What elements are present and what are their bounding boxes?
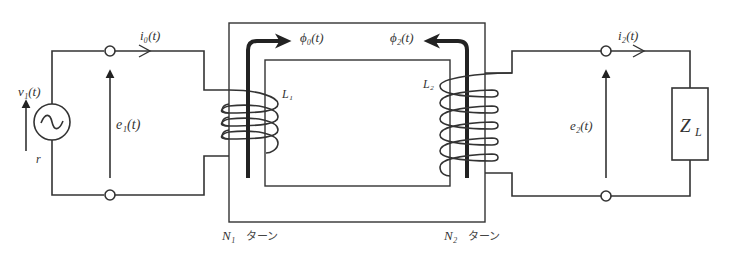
secondary-current-label: i₂(t): [618, 28, 638, 43]
secondary-turns-label: N₂ ターン: [443, 228, 500, 243]
svg-text:ターン: ターン: [468, 230, 500, 243]
secondary-circuit: L₂ i₂(t) e₂(t) Z L N₂ ターン: [422, 28, 708, 243]
primary-bottom-rail: [114, 156, 229, 195]
load-impedance: Z L: [672, 88, 708, 160]
primary-flux-label: ϕ₀(t): [300, 30, 324, 45]
ac-source-icon: [34, 104, 70, 140]
primary-voltage-label: e₁(t): [116, 117, 141, 133]
secondary-coil-icon: [440, 73, 512, 176]
secondary-load-bottom-wire: [611, 160, 690, 196]
primary-terminal-bottom: [105, 190, 115, 200]
primary-circuit: v₁(t) r i₀(t) e₁(t) L₁ N₁ ターン: [18, 28, 293, 243]
load-impedance-label: Z: [680, 115, 691, 136]
transformer-core: [229, 23, 485, 222]
svg-text:ターン: ターン: [246, 230, 278, 243]
secondary-voltage-label: e₂(t): [570, 118, 593, 133]
primary-flux-arrow-icon: [248, 41, 284, 178]
secondary-flux-label: ϕ₂(t): [390, 30, 414, 45]
primary-top-rail: [114, 51, 229, 90]
core-outer-edge: [229, 23, 485, 222]
svg-text:N₁: N₁: [221, 228, 235, 243]
source-resistance-label: r: [36, 152, 41, 166]
transformer-diagram: v₁(t) r i₀(t) e₁(t) L₁ N₁ ターン ϕ₀(t) ϕ₂(t…: [0, 0, 729, 257]
secondary-inductor-label: L₂: [422, 77, 434, 91]
secondary-terminal-top: [601, 46, 611, 56]
load-impedance-subscript: L: [694, 125, 702, 139]
secondary-load-top-wire: [611, 51, 690, 88]
primary-terminal-top: [105, 46, 115, 56]
primary-current-label: i₀(t): [140, 28, 160, 43]
primary-inductor-label: L₁: [281, 87, 293, 101]
secondary-top-rail: [485, 51, 601, 73]
secondary-terminal-bottom: [601, 191, 611, 201]
secondary-bottom-rail: [485, 173, 601, 196]
svg-text:N₂: N₂: [443, 228, 458, 243]
primary-top-wire: [52, 51, 104, 104]
primary-bottom-wire: [52, 140, 104, 195]
primary-turns-label: N₁ ターン: [221, 228, 278, 243]
source-voltage-label: v₁(t): [18, 84, 41, 99]
flux-arrows: ϕ₀(t) ϕ₂(t): [248, 30, 467, 178]
